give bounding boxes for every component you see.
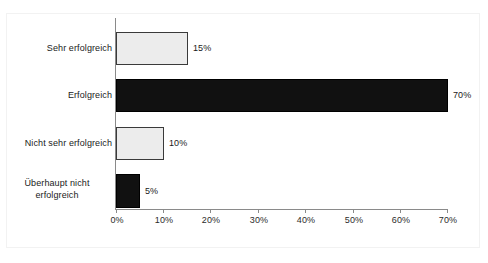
x-axis-tick-label-50: 50% (345, 215, 363, 225)
x-axis-tick-label-0: 0% (110, 215, 123, 225)
x-axis-tick-50 (353, 210, 354, 213)
x-axis-tick-label-30: 30% (250, 215, 268, 225)
x-axis-tick-label-40: 40% (297, 215, 315, 225)
x-axis-tick-label-70: 70% (439, 215, 457, 225)
bar-value-label-sehr-erfolgreich: 15% (193, 43, 211, 53)
bar-sehr-erfolgreich[interactable] (116, 32, 188, 65)
bar-value-label-nicht-sehr-erfolgreich: 10% (169, 138, 187, 148)
bar-value-label-erfolgreich: 70% (453, 90, 471, 100)
x-axis-tick-label-20: 20% (202, 215, 220, 225)
x-axis-line (115, 209, 448, 210)
x-axis-tick-0 (116, 210, 117, 213)
x-axis-tick-20 (210, 210, 211, 213)
bar-category-label-nicht-sehr-erfolgreich: Nicht sehr erfolgreich (25, 137, 112, 149)
bar-category-label-erfolgreich: Erfolgreich (68, 89, 112, 101)
x-axis-tick-60 (400, 210, 401, 213)
x-axis-tick-10 (163, 210, 164, 213)
bar-erfolgreich[interactable] (116, 79, 448, 112)
bar-value-label-ueberhaupt-nicht-erfolgreich: 5% (145, 186, 158, 196)
bar-ueberhaupt-nicht-erfolgreich[interactable] (116, 174, 140, 208)
bar-nicht-sehr-erfolgreich[interactable] (116, 127, 164, 160)
bar-category-label-sehr-erfolgreich: Sehr erfolgreich (47, 42, 112, 54)
x-axis-tick-30 (258, 210, 259, 213)
bar-category-label-ueberhaupt-nicht-erfolgreich: Überhaupt nicht erfolgreich (2, 177, 112, 201)
x-axis-tick-40 (305, 210, 306, 213)
x-axis-tick-label-60: 60% (392, 215, 410, 225)
bar-chart-plot: 0% 10% 20% 30% 40% 50% 60% 70% Sehr erfo… (0, 0, 488, 263)
x-axis-tick-label-10: 10% (155, 215, 173, 225)
x-axis-tick-70 (447, 210, 448, 213)
